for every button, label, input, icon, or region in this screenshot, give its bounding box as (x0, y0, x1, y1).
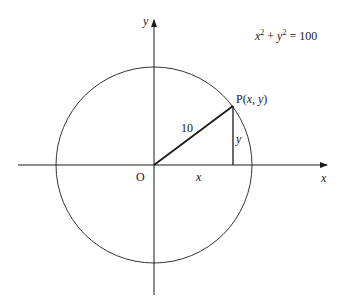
circle-equation: x2 + y2 = 100 (255, 30, 317, 42)
horizontal-leg-label: x (196, 171, 201, 183)
equation-plus: + (267, 29, 274, 43)
point-prefix: P( (236, 92, 247, 106)
equation-x-exponent: 2 (260, 28, 264, 37)
point-suffix: ) (263, 92, 267, 106)
equation-equals: = (289, 29, 296, 43)
radius-label: 10 (181, 122, 193, 134)
equation-rhs: 100 (299, 29, 317, 43)
vertical-leg-label: y (236, 133, 241, 145)
y-axis-label: y (143, 15, 148, 27)
x-axis-label: x (321, 172, 326, 184)
radius-segment (154, 106, 233, 165)
unit-circle-diagram (0, 0, 342, 303)
origin-label: O (136, 171, 145, 183)
point-p-label: P(x, y) (236, 93, 267, 105)
equation-y-exponent: 2 (282, 28, 286, 37)
